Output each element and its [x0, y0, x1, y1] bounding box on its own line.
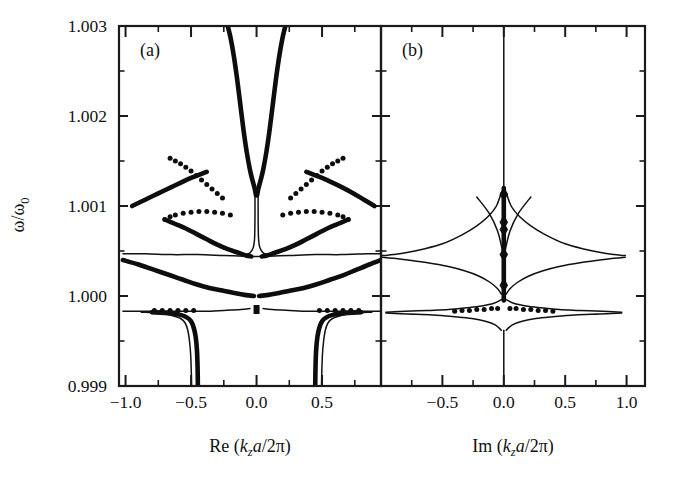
- data-point: [467, 308, 472, 313]
- data-point: [474, 307, 479, 312]
- series-lens-0.9998-lower-left: [386, 313, 501, 330]
- series-central-neck-left: [243, 195, 255, 255]
- series-lens-lower-left: [123, 260, 254, 296]
- data-point: [178, 161, 183, 166]
- data-point: [220, 211, 225, 216]
- panel-b-frame: [381, 26, 645, 386]
- panel-b-x-tick-labels: −0.50.00.51.0: [427, 392, 638, 412]
- panel-b-label: (b): [402, 40, 423, 61]
- panel-b-x-axis-title: Im (kza/2π): [472, 436, 553, 459]
- data-point: [210, 186, 215, 191]
- data-point: [181, 211, 186, 216]
- series-upper-parabolic-band-right: [257, 26, 285, 195]
- panel-a-frame: [119, 26, 381, 386]
- clipped-curves: [382, 26, 625, 386]
- data-point: [482, 307, 487, 312]
- data-point: [320, 168, 325, 173]
- series-steep-drop-left-thin: [141, 312, 191, 386]
- x-tick-label: 1.0: [616, 392, 638, 412]
- data-point: [325, 308, 330, 313]
- y-axis-title-sub: 0: [18, 198, 32, 204]
- x-tick-label: 0.5: [554, 392, 576, 412]
- x-tick-label: 0.0: [246, 392, 268, 412]
- data-point: [325, 165, 330, 170]
- data-point: [220, 195, 225, 200]
- y-axis-title-main: ω/ω: [8, 204, 28, 233]
- series-spearhead-envelope-left: [382, 193, 501, 256]
- y-tick-label: 1.000: [68, 286, 108, 306]
- data-point: [215, 191, 220, 196]
- series-dotted-branch-mid-left: [162, 209, 233, 222]
- series-lower-envelope-left: [382, 257, 501, 294]
- series-upper-parabolic-band-left: [228, 26, 256, 195]
- panel-b-xtitle-a: a: [516, 436, 525, 456]
- clipped-curves: [123, 26, 381, 386]
- series-thick-branch-upper-left: [132, 172, 207, 206]
- data-point: [304, 209, 309, 214]
- series-spearhead-envelope-right: [506, 193, 625, 256]
- panel-b-curves: [382, 26, 625, 386]
- series-flat-line-0.9998-right: [263, 309, 381, 312]
- series-mid-cross-arms-left: [477, 197, 503, 251]
- panel-a: −1.0−0.50.00.5 (a) Re (kza/2π): [110, 26, 381, 459]
- data-point: [191, 308, 196, 313]
- panel-a-xtitle-pre: Re (: [209, 436, 240, 457]
- panel-b-x-ticks: [412, 26, 627, 386]
- data-point: [288, 211, 293, 216]
- panel-a-xtitle-a: a: [253, 436, 262, 456]
- data-point: [199, 177, 204, 182]
- data-point: [460, 308, 465, 313]
- data-point: [528, 307, 533, 312]
- series-thick-descending-right: [262, 220, 348, 257]
- data-point: [335, 213, 340, 218]
- x-tick-label: −1.0: [110, 392, 142, 412]
- data-point: [320, 210, 325, 215]
- y-tick-label: 1.003: [68, 16, 108, 36]
- data-point: [296, 210, 301, 215]
- series-center-blob: [254, 305, 260, 314]
- data-point: [304, 182, 309, 187]
- y-tick-label: 1.002: [68, 106, 107, 126]
- panel-a-label: (a): [140, 40, 160, 61]
- data-point: [452, 309, 457, 314]
- data-point: [189, 210, 194, 215]
- y-tick-label: 1.001: [68, 196, 107, 216]
- svg-text:ω/ω0: ω/ω0: [8, 198, 32, 233]
- data-point: [536, 308, 541, 313]
- y-axis-tick-labels: 1.0031.0021.0011.0000.999: [68, 16, 108, 396]
- x-tick-label: −0.5: [175, 392, 207, 412]
- panel-b: −0.50.00.51.0 (b) Im (kza/2π): [381, 26, 645, 459]
- data-point: [514, 306, 519, 311]
- data-point: [299, 186, 304, 191]
- data-point: [280, 213, 285, 218]
- data-point: [312, 209, 317, 214]
- data-point: [521, 307, 526, 312]
- data-point: [489, 306, 494, 311]
- data-point: [317, 308, 322, 313]
- panel-b-xtitle-pre: Im (: [472, 436, 503, 457]
- data-point: [168, 156, 173, 161]
- panel-a-x-axis-title: Re (kza/2π): [209, 436, 290, 459]
- data-point: [204, 209, 209, 214]
- series-steep-drop-right-thin: [322, 312, 372, 386]
- two-panel-band-structure-plot: ω/ω0 1.0031.0021.0011.0000.999 −1.0−0.50…: [0, 0, 682, 484]
- series-thick-branch-upper-right: [306, 172, 374, 206]
- data-point: [183, 165, 188, 170]
- y-axis-title: ω/ω0: [8, 198, 32, 233]
- series-lens-lower-right: [259, 260, 381, 296]
- data-point: [341, 156, 346, 161]
- series-central-neck-right: [258, 195, 270, 255]
- x-tick-label: −0.5: [427, 392, 459, 412]
- panel-a-curves: [123, 26, 381, 386]
- panel-a-x-tick-labels: −1.0−0.50.00.5: [110, 392, 334, 412]
- series-thick-descending-left: [165, 220, 251, 257]
- y-tick-label: 0.999: [68, 376, 108, 396]
- data-point: [228, 213, 233, 218]
- data-point: [495, 306, 500, 311]
- series-mid-cross-arms-right: [505, 197, 531, 251]
- data-point: [507, 306, 512, 311]
- data-point: [550, 309, 555, 314]
- panel-b-xtitle-post: /2π): [525, 436, 554, 457]
- series-lens-0.9998-lower-right: [506, 313, 621, 330]
- data-point: [189, 168, 194, 173]
